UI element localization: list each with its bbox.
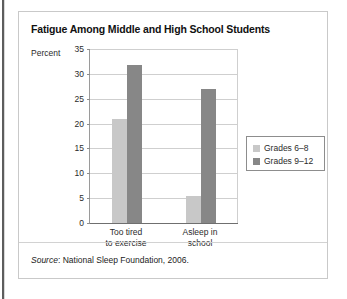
y-axis-tick-label: 25 bbox=[75, 94, 84, 103]
page-edge-shadow bbox=[4, 0, 5, 299]
y-axis-tick bbox=[87, 223, 90, 224]
bar-grades-6-8-1 bbox=[186, 196, 201, 223]
y-axis-tick bbox=[87, 99, 90, 100]
y-axis-tick bbox=[87, 74, 90, 75]
y-axis-tick bbox=[87, 148, 90, 149]
source-divider bbox=[19, 242, 327, 243]
legend-label: Grades 6–8 bbox=[264, 143, 308, 153]
y-axis-tick bbox=[87, 49, 90, 50]
y-axis-tick-label: 15 bbox=[75, 144, 84, 153]
y-axis-tick-labels: 05101520253035 bbox=[59, 49, 84, 223]
legend-swatch-icon bbox=[253, 158, 260, 165]
y-axis-tick-label: 30 bbox=[75, 70, 84, 79]
bar-grades-9-12-1 bbox=[201, 89, 216, 223]
x-axis-label-1: Asleep in school bbox=[163, 227, 237, 249]
y-axis-tick bbox=[87, 173, 90, 174]
y-axis-tick-label: 10 bbox=[75, 169, 84, 178]
bar-grades-9-12-0 bbox=[127, 65, 142, 223]
legend-label: Grades 9–12 bbox=[264, 156, 313, 166]
source-note: Source: National Sleep Foundation, 2006. bbox=[31, 255, 189, 265]
chart-title: Fatigue Among Middle and High School Stu… bbox=[31, 23, 270, 35]
y-axis-tick-label: 5 bbox=[79, 194, 84, 203]
legend-swatch-icon bbox=[253, 145, 260, 152]
y-axis-tick bbox=[87, 198, 90, 199]
gridline bbox=[90, 74, 238, 75]
source-text: : National Sleep Foundation, 2006. bbox=[58, 255, 189, 265]
gridline bbox=[90, 49, 238, 50]
plot-area bbox=[89, 49, 238, 224]
y-axis-tick-label: 20 bbox=[75, 119, 84, 128]
y-axis-title: Percent bbox=[31, 48, 60, 58]
y-axis-tick bbox=[87, 124, 90, 125]
y-axis-tick-label: 35 bbox=[75, 45, 84, 54]
legend-item: Grades 9–12 bbox=[253, 155, 324, 167]
bar-grades-6-8-0 bbox=[112, 119, 127, 223]
source-label: Source bbox=[31, 255, 58, 265]
y-axis-tick-label: 0 bbox=[79, 219, 84, 228]
chart-legend: Grades 6–8Grades 9–12 bbox=[246, 136, 325, 171]
x-axis-label-0: Too tired to exercise bbox=[89, 227, 163, 249]
legend-item: Grades 6–8 bbox=[253, 142, 324, 154]
figure-panel: Fatigue Among Middle and High School Stu… bbox=[18, 11, 328, 279]
